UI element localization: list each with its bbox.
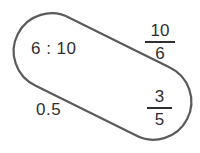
ratio-label: 6 : 10: [31, 40, 77, 57]
figure-canvas: 6 : 10 0.5 10 6 3 5: [0, 0, 200, 153]
fraction-ten-sixths-bar: [145, 41, 175, 43]
fraction-ten-sixths: 10 6: [145, 22, 175, 62]
decimal-label: 0.5: [36, 101, 61, 118]
fraction-three-fifths: 3 5: [147, 88, 172, 128]
fraction-ten-sixths-numerator: 10: [151, 22, 170, 39]
fraction-three-fifths-bar: [147, 107, 172, 109]
fraction-ten-sixths-denominator: 6: [155, 45, 164, 62]
fraction-three-fifths-numerator: 3: [155, 88, 164, 105]
fraction-three-fifths-denominator: 5: [155, 111, 164, 128]
